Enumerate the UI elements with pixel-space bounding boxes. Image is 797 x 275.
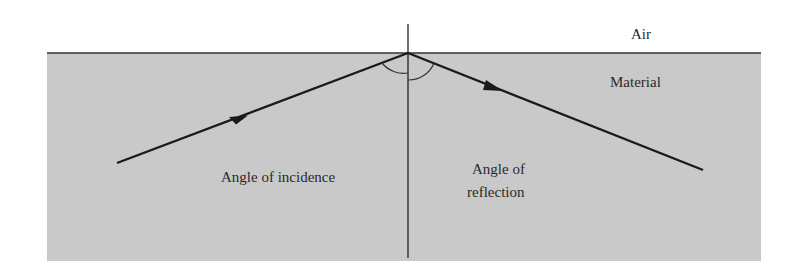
reflection-diagram: Air Material Angle of incidence Angle of…	[0, 0, 797, 275]
angle-of-incidence-label: Angle of incidence	[221, 169, 335, 185]
air-label: Air	[631, 26, 651, 42]
angle-of-reflection-label-line2: reflection	[467, 184, 525, 200]
angle-of-reflection-label-line1: Angle of	[472, 161, 525, 177]
material-label: Material	[610, 74, 661, 90]
